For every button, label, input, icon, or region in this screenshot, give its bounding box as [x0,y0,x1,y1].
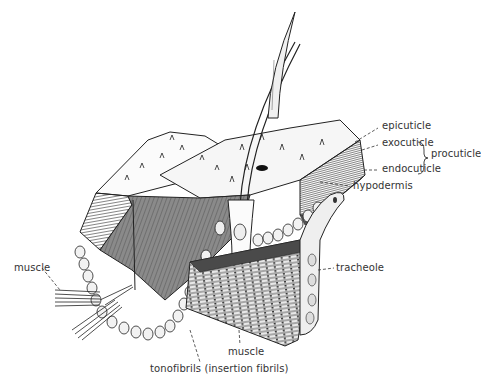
label-muscle-left: muscle [14,262,50,274]
label-epicuticle: epicuticle [382,120,431,132]
label-tracheole: tracheole [336,262,384,274]
label-tonofibrils: tonofibrils (insertion fibrils) [150,363,289,375]
label-endocuticle: endocuticle [382,163,441,175]
label-hypodermis: hypodermis [353,180,413,192]
label-procuticle: procuticle [431,148,481,160]
label-exocuticle: exocuticle [382,137,434,149]
label-muscle-bottom: muscle [228,346,264,358]
